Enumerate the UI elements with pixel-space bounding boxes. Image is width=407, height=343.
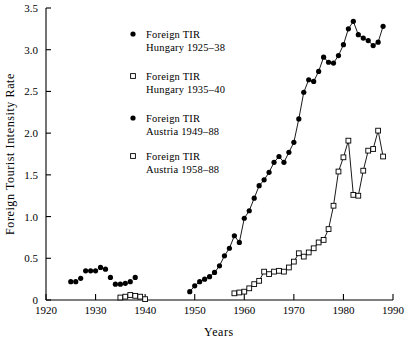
data-point-series-0 xyxy=(108,275,113,280)
data-point-series-3 xyxy=(257,278,262,283)
data-point-series-2 xyxy=(291,140,296,145)
x-tick-label: 1960 xyxy=(233,304,256,316)
data-point-series-2 xyxy=(346,26,351,31)
data-point-series-2 xyxy=(266,170,271,175)
data-point-series-2 xyxy=(336,53,341,58)
data-point-series-2 xyxy=(366,38,371,43)
legend-label-line1: Foreign TIR xyxy=(146,71,200,82)
data-point-series-3 xyxy=(247,286,252,291)
x-tick-label: 1950 xyxy=(184,304,207,316)
data-point-series-0 xyxy=(128,279,133,284)
data-point-series-3 xyxy=(376,128,381,133)
data-point-series-2 xyxy=(207,274,212,279)
data-point-series-3 xyxy=(287,265,292,270)
y-axis-title: Foreign Tourist Intensity Rate xyxy=(3,73,17,235)
data-point-series-2 xyxy=(252,196,257,201)
data-point-series-2 xyxy=(237,240,242,245)
legend-label-line2: Hungary 1935–40 xyxy=(146,84,225,95)
data-point-series-2 xyxy=(212,270,217,275)
data-point-series-2 xyxy=(281,160,286,165)
series-marker-group xyxy=(68,19,386,302)
data-point-series-2 xyxy=(331,60,336,65)
x-tick-label: 1930 xyxy=(85,304,108,316)
data-point-series-3 xyxy=(242,289,247,294)
data-point-series-3 xyxy=(291,259,296,264)
data-point-series-1 xyxy=(123,294,128,299)
legend-entry-3: Foreign TIRAustria 1958–88 xyxy=(131,151,220,175)
data-point-series-2 xyxy=(380,24,385,29)
data-point-series-3 xyxy=(301,254,306,259)
data-point-series-2 xyxy=(376,40,381,45)
series-line-3 xyxy=(234,131,383,294)
data-point-series-0 xyxy=(78,276,83,281)
data-point-series-3 xyxy=(336,169,341,174)
legend-label-line2: Austria 1958–88 xyxy=(146,164,219,175)
x-tick-label: 1940 xyxy=(134,304,157,316)
y-tick-label: 2.5 xyxy=(24,85,38,97)
data-point-series-3 xyxy=(296,251,301,256)
x-tick-label: 1920 xyxy=(35,304,58,316)
y-tick-label: 3.5 xyxy=(24,2,38,14)
y-tick-label: 1.0 xyxy=(24,211,38,223)
data-point-series-0 xyxy=(123,281,128,286)
data-point-series-2 xyxy=(192,283,197,288)
y-tick-label: 1.5 xyxy=(24,169,38,181)
data-point-series-2 xyxy=(341,42,346,47)
data-point-series-0 xyxy=(133,275,138,280)
data-point-series-2 xyxy=(371,43,376,48)
data-point-series-0 xyxy=(83,268,88,273)
data-point-series-2 xyxy=(242,216,247,221)
data-point-series-2 xyxy=(301,90,306,95)
data-point-series-2 xyxy=(187,289,192,294)
data-point-series-3 xyxy=(356,193,361,198)
legend-entry-1: Foreign TIRHungary 1935–40 xyxy=(131,71,226,95)
legend-marker-open-square xyxy=(131,74,136,79)
legend-entry-0: Foreign TIRHungary 1925–38 xyxy=(130,29,225,53)
data-point-series-1 xyxy=(138,294,143,299)
legend-marker-filled-circle xyxy=(130,31,135,36)
data-point-series-3 xyxy=(267,272,272,277)
data-point-series-2 xyxy=(197,279,202,284)
data-point-series-2 xyxy=(262,177,267,182)
legend-label-line2: Hungary 1925–38 xyxy=(146,42,225,53)
series-line-group xyxy=(190,21,383,293)
data-point-series-0 xyxy=(88,268,93,273)
legend-label-line1: Foreign TIR xyxy=(146,113,200,124)
series-line-2 xyxy=(190,21,383,291)
data-point-series-1 xyxy=(133,293,138,298)
chart-canvas: 00.51.01.52.02.53.03.5 19201930194019501… xyxy=(0,0,407,343)
data-point-series-2 xyxy=(217,263,222,268)
data-point-series-2 xyxy=(276,154,281,159)
y-tick-label: 3.0 xyxy=(24,44,38,56)
data-point-series-3 xyxy=(346,138,351,143)
chart-legend: Foreign TIRHungary 1925–38Foreign TIRHun… xyxy=(130,29,225,175)
data-point-series-0 xyxy=(113,282,118,287)
legend-entry-2: Foreign TIRAustria 1949–88 xyxy=(130,113,219,137)
data-point-series-3 xyxy=(331,203,336,208)
legend-label-line1: Foreign TIR xyxy=(146,151,200,162)
data-point-series-2 xyxy=(296,116,301,121)
data-point-series-0 xyxy=(118,282,123,287)
data-point-series-2 xyxy=(222,253,227,258)
data-point-series-2 xyxy=(321,55,326,60)
data-point-series-2 xyxy=(227,246,232,251)
data-point-series-1 xyxy=(143,297,148,302)
legend-marker-open-square xyxy=(131,154,136,159)
data-point-series-2 xyxy=(351,19,356,24)
data-point-series-3 xyxy=(381,154,386,159)
data-point-series-2 xyxy=(202,277,207,282)
data-point-series-0 xyxy=(73,279,78,284)
legend-label-line2: Austria 1949–88 xyxy=(146,126,219,137)
data-point-series-2 xyxy=(361,35,366,40)
data-point-series-2 xyxy=(316,69,321,74)
x-tick-label: 1980 xyxy=(332,304,355,316)
data-point-series-3 xyxy=(277,268,282,273)
data-point-series-3 xyxy=(361,168,366,173)
data-point-series-3 xyxy=(232,291,237,296)
data-point-series-3 xyxy=(316,240,321,245)
legend-marker-filled-circle xyxy=(130,115,135,120)
data-point-series-3 xyxy=(237,290,242,295)
x-tick-label: 1970 xyxy=(283,304,306,316)
x-axis-title: Years xyxy=(204,325,234,339)
data-point-series-3 xyxy=(272,269,277,274)
